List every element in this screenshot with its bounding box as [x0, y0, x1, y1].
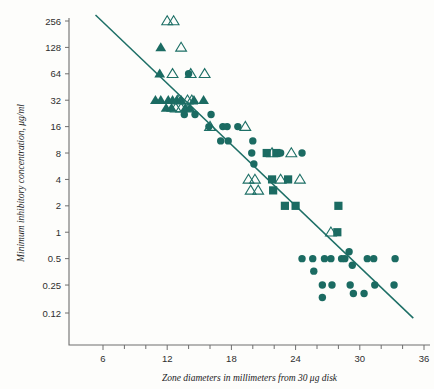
data-point-circle-filled [249, 137, 256, 144]
axes [65, 18, 430, 350]
y-tick-label: 4 [56, 174, 61, 185]
data-point-triangle-open [286, 148, 297, 157]
y-tick-label: 0.12 [43, 308, 62, 319]
data-point-circle-filled [371, 281, 378, 288]
data-point-triangle-open [240, 121, 251, 130]
data-point-circle-filled [319, 294, 326, 301]
data-point-triangle-open [176, 42, 187, 51]
data-point-circle-filled [185, 70, 192, 77]
data-point-circle-filled [277, 149, 284, 156]
data-point-square-filled [292, 202, 300, 210]
y-tick-label: 256 [45, 16, 61, 27]
y-tick-label: 0.25 [43, 280, 62, 291]
y-tick-label: 1 [56, 227, 61, 238]
data-point-triangle-open [245, 185, 256, 194]
data-point-triangle-filled [155, 42, 166, 51]
data-points-group [150, 16, 399, 301]
data-point-circle-filled [345, 248, 352, 255]
y-tick-label: 128 [45, 42, 61, 53]
data-point-circle-filled [223, 123, 230, 130]
data-point-circle-filled [207, 111, 214, 118]
data-point-circle-filled [390, 281, 397, 288]
data-point-circle-filled [248, 149, 255, 156]
plot-axes [69, 18, 430, 345]
data-point-circle-filled [234, 123, 241, 130]
y-tick-label: 16 [50, 121, 61, 132]
data-point-circle-filled [181, 111, 188, 118]
chart-figure: 25612864321684210.50.250.1261218243036Zo… [0, 0, 434, 389]
data-point-circle-filled [321, 255, 328, 262]
data-point-circle-filled [298, 149, 305, 156]
x-tick-label: 18 [226, 353, 237, 364]
y-axis-title: Minimum inhibitory concentration, μg/ml [16, 104, 26, 263]
data-point-circle-filled [349, 262, 356, 269]
data-point-circle-filled [364, 255, 371, 262]
data-point-circle-filled [224, 137, 231, 144]
data-point-square-filled [334, 202, 342, 210]
data-point-circle-filled [391, 255, 398, 262]
data-point-triangle-open [199, 69, 210, 78]
data-point-circle-filled [217, 137, 224, 144]
data-point-circle-filled [327, 255, 334, 262]
data-point-square-filled [268, 175, 276, 183]
data-point-circle-filled [346, 281, 353, 288]
data-point-circle-filled [370, 255, 377, 262]
data-point-square-filled [269, 186, 277, 194]
data-point-square-filled [281, 202, 289, 210]
data-point-triangle-filled [198, 95, 209, 104]
x-tick-label: 6 [100, 353, 105, 364]
data-point-circle-filled [310, 267, 317, 274]
data-point-square-filled [284, 175, 292, 183]
data-point-circle-filled [328, 281, 335, 288]
data-point-triangle-open [253, 185, 264, 194]
data-point-circle-filled [205, 123, 212, 130]
data-point-circle-filled [341, 255, 348, 262]
y-tick-label: 64 [50, 68, 61, 79]
x-axis-title: Zone diameters in millimeters from 30 μg… [162, 373, 338, 383]
scatter-plot-svg: 25612864321684210.50.250.1261218243036Zo… [0, 0, 434, 389]
y-tick-label: 2 [56, 200, 61, 211]
y-tick-label: 8 [56, 148, 61, 159]
data-point-triangle-open [167, 69, 178, 78]
data-point-circle-filled [319, 281, 326, 288]
data-point-circle-filled [298, 255, 305, 262]
x-tick-label: 36 [419, 353, 430, 364]
x-tick-label: 12 [162, 353, 173, 364]
data-point-triangle-open [294, 174, 305, 183]
x-tick-label: 24 [290, 353, 301, 364]
data-point-circle-filled [250, 160, 257, 167]
axis-labels-group: 25612864321684210.50.250.1261218243036Zo… [16, 16, 429, 384]
data-point-circle-filled [191, 111, 198, 118]
x-tick-label: 30 [355, 353, 366, 364]
data-point-circle-filled [309, 255, 316, 262]
series-open-triangle [162, 16, 337, 236]
data-point-square-filled [263, 149, 271, 157]
data-point-circle-filled [360, 290, 367, 297]
data-point-circle-filled [350, 290, 357, 297]
y-tick-label: 32 [50, 95, 61, 106]
series-filled-square [263, 149, 343, 236]
y-tick-label: 0.5 [48, 253, 61, 264]
data-point-square-filled [333, 228, 341, 236]
series-filled-circle [181, 70, 399, 301]
